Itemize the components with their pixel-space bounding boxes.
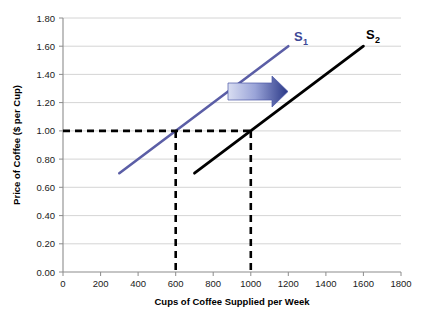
curve-label-s1-subscript: 1: [303, 37, 308, 47]
x-tick-label: 400: [130, 278, 146, 289]
curve-label-s1-text: S: [294, 29, 303, 44]
curve-label-s2-subscript: 2: [375, 35, 380, 45]
y-axis-tick-labels: 1.80 1.60 1.40 1.20 1.00 0.80 0.60 0.40 …: [37, 13, 56, 278]
x-axis-tick-labels: 0 200 400 600 800 1000 1200 1400 1600 18…: [60, 278, 411, 289]
x-tick-label: 600: [168, 278, 184, 289]
x-axis-ticks: [63, 272, 401, 276]
y-tick-label: 1.60: [37, 41, 56, 52]
x-tick-label: 1200: [278, 278, 299, 289]
y-axis-title: Price of Coffee ($ per Cup): [11, 85, 22, 205]
y-tick-label: 1.00: [37, 125, 56, 136]
y-tick-label: 1.20: [37, 97, 56, 108]
chart-canvas: 1.80 1.60 1.40 1.20 1.00 0.80 0.60 0.40 …: [0, 0, 427, 324]
x-tick-label: 1600: [353, 278, 374, 289]
x-tick-label: 1000: [240, 278, 261, 289]
x-tick-label: 800: [205, 278, 221, 289]
y-axis-ticks: [59, 18, 63, 272]
x-axis-title: Cups of Coffee Supplied per Week: [154, 296, 310, 307]
y-tick-label: 1.40: [37, 69, 56, 80]
y-tick-label: 1.80: [37, 13, 56, 24]
supply-curve-chart: 1.80 1.60 1.40 1.20 1.00 0.80 0.60 0.40 …: [0, 0, 427, 324]
y-tick-label: 0.20: [37, 238, 56, 249]
curve-label-s2-text: S: [366, 27, 375, 42]
x-tick-label: 200: [93, 278, 109, 289]
x-tick-label: 0: [60, 278, 65, 289]
y-tick-label: 0.80: [37, 154, 56, 165]
x-tick-label: 1400: [315, 278, 336, 289]
y-tick-label: 0.00: [37, 267, 56, 278]
y-tick-label: 0.40: [37, 210, 56, 221]
y-tick-label: 0.60: [37, 182, 56, 193]
x-tick-label: 1800: [390, 278, 411, 289]
